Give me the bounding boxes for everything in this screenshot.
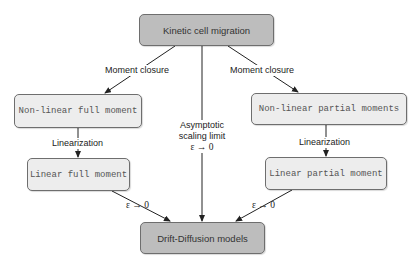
node-kinetic-cell-migration: Kinetic cell migration (139, 14, 274, 46)
node-label: Kinetic cell migration (163, 25, 250, 36)
node-drift-diffusion-models: Drift-Diffusion models (140, 222, 265, 254)
node-label: Linear partial moment (269, 169, 382, 179)
node-label: Drift-Diffusion models (157, 233, 248, 244)
node-label: Non-linear full moment (19, 106, 138, 116)
node-linear-full-moment: Linear full moment (27, 158, 130, 191)
label-moment-closure-left: Moment closure (105, 65, 169, 76)
label-eps-right: ε → 0 (252, 200, 275, 211)
node-nonlinear-partial-moments: Non-linear partial moments (251, 93, 407, 125)
node-nonlinear-full-moment: Non-linear full moment (14, 94, 142, 128)
label-asymptotic-line3: ε → 0 (185, 142, 219, 153)
label-linearization-left: Linearization (52, 138, 103, 149)
label-moment-closure-right: Moment closure (230, 65, 294, 76)
node-linear-partial-moment: Linear partial moment (265, 157, 387, 190)
node-label: Linear full moment (30, 170, 127, 180)
label-asymptotic-line1: Asymptotic (180, 120, 224, 131)
label-asymptotic-line2: scaling limit (172, 131, 232, 142)
node-label: Non-linear partial moments (259, 104, 399, 114)
label-eps-left: ε → 0 (126, 200, 149, 211)
label-linearization-right: Linearization (299, 137, 350, 148)
